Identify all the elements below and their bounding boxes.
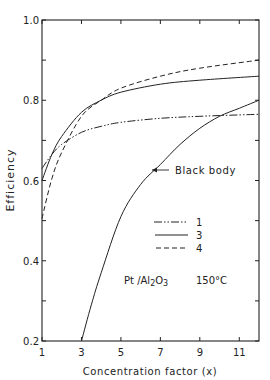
- legend-item-3: 3: [155, 230, 202, 241]
- legend-label-3: 3: [196, 230, 202, 241]
- series-line-black-body: [82, 100, 260, 341]
- series-line-1: [42, 114, 259, 168]
- x-tick-label: 1: [39, 347, 45, 358]
- legend-label-1: 1: [196, 217, 202, 228]
- x-tick-label: 7: [157, 347, 163, 358]
- y-tick-label: 1.0: [23, 15, 39, 26]
- black-body-label: Black body: [175, 165, 236, 176]
- legend-item-1: 1: [154, 217, 202, 228]
- temperature-label: 150°C: [196, 275, 227, 286]
- data-series: [42, 60, 259, 341]
- y-tick-label: 0.8: [23, 95, 39, 106]
- condition-annotation: Pt /Al2O3 150°C: [124, 275, 227, 288]
- y-tick-label: 0.6: [23, 176, 39, 187]
- x-tick-label: 5: [118, 347, 124, 358]
- x-axis-label: Concentration factor (x): [83, 366, 218, 377]
- x-tick-label: 3: [78, 347, 84, 358]
- y-axis-label: Efficiency: [4, 148, 17, 211]
- legend: 1 3 4: [154, 217, 202, 254]
- x-tick-label: 11: [233, 347, 246, 358]
- efficiency-chart: 13579110.20.40.60.81.0 Efficiency Concen…: [0, 0, 270, 380]
- catalyst-label: Pt /Al2O3: [124, 275, 168, 288]
- y-tick-label: 0.2: [23, 336, 39, 347]
- black-body-annotation: Black body: [152, 165, 236, 176]
- y-tick-label: 0.4: [23, 256, 39, 267]
- axis-ticks: 13579110.20.40.60.81.0: [23, 15, 259, 358]
- series-line-4: [42, 60, 259, 219]
- legend-label-4: 4: [196, 243, 202, 254]
- legend-item-4: 4: [156, 243, 202, 254]
- plot-frame: [42, 20, 259, 341]
- x-tick-label: 9: [197, 347, 203, 358]
